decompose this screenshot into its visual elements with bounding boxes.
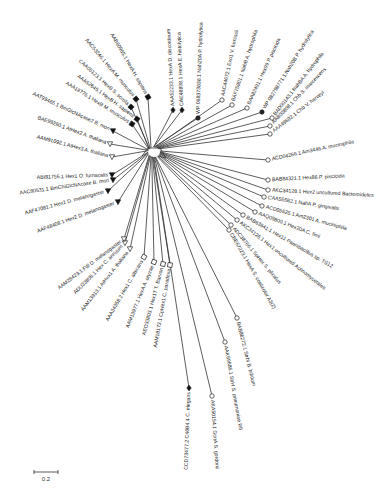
leaf-label: AAK69686.1 StrH S. pneumoniae R6 [223,345,244,430]
branch [154,110,182,147]
scale-bar: 0.2 [34,470,58,482]
square-open-marker-icon [141,254,147,260]
square-open-marker-icon [160,261,165,266]
branch [148,97,151,148]
square-filled-marker-icon [134,116,140,122]
branch [160,154,255,212]
square-open-marker-icon [167,262,172,267]
square-filled-marker-icon [133,96,139,102]
leaf-label: WP 068373636.1 Nah20A P. hydrolytica [195,22,204,114]
branch [112,151,148,157]
circle-open-marker-icon [268,132,272,136]
triangle-filled-marker-icon [115,200,120,205]
leaf-label: CCD73477.2 C46B4.4 C. elegans [183,391,192,469]
circle-open-marker-icon [260,204,264,208]
branch [159,155,243,216]
circle-open-marker-icon [235,218,239,222]
circle-open-marker-icon [227,228,231,232]
leaf-label: BAB84321.1 Hex86 P. piscicida [272,172,345,182]
circle-open-marker-icon [230,103,234,107]
circle-open-marker-icon [266,178,270,182]
branch [154,157,212,396]
triangle-open-marker-icon [122,241,127,246]
phylogenetic-tree-figure: AAA52233.1 HexA D. discoideumCAE48898.1 … [0,0,392,494]
diamond-filled-marker-icon [187,385,191,391]
branch [130,156,150,249]
leaf-label: BAB86272.1 StrbI B. bifidum [236,321,258,387]
tree-canvas: AAA52233.1 HexA D. discoideumCAE48898.1 … [0,0,392,494]
triangle-open-marker-icon [127,247,132,252]
circle-open-marker-icon [229,223,233,227]
circle-filled-marker-icon [196,116,200,120]
square-open-marker-icon [151,259,157,265]
square-filled-marker-icon [145,94,151,100]
branch [160,152,268,190]
circle-open-marker-icon [245,106,249,110]
leaf-labels: AAA52233.1 HexA D. discoideumCAE48898.1 … [19,22,374,470]
circle-filled-marker-icon [260,110,264,114]
diamond-filled-marker-icon [171,107,175,113]
circle-open-marker-icon [266,158,270,162]
leaf-label: ACD04266.1 Am3446 A. muciniphila [271,138,354,161]
circle-open-marker-icon [210,394,214,398]
triangle-filled-marker-icon [110,178,115,183]
circle-open-marker-icon [253,210,257,214]
square-filled-marker-icon [129,121,135,127]
leaf-label: AKA50154.1 GcnA S. gordonii [210,400,221,470]
triangle-filled-marker-icon [110,129,115,134]
circle-open-marker-icon [266,188,270,192]
circle-open-marker-icon [262,195,266,199]
triangle-open-marker-icon [109,155,114,160]
branch [159,155,237,220]
triangle-filled-marker-icon [105,189,110,194]
circle-open-marker-icon [241,213,245,217]
branch [160,151,268,160]
triangle-filled-marker-icon [109,173,114,178]
branch [158,126,270,148]
scale-bar-label: 0.2 [42,476,51,482]
branch [155,157,225,342]
branch [124,155,149,239]
circle-open-marker-icon [220,98,224,102]
circle-open-marker-icon [235,316,239,320]
leaf-label: CAE48898.1 HexA E. histolytica [176,32,185,106]
leaf-label: AAA52233.1 HexA D. discoideum [165,29,175,106]
circle-open-marker-icon [223,340,227,344]
